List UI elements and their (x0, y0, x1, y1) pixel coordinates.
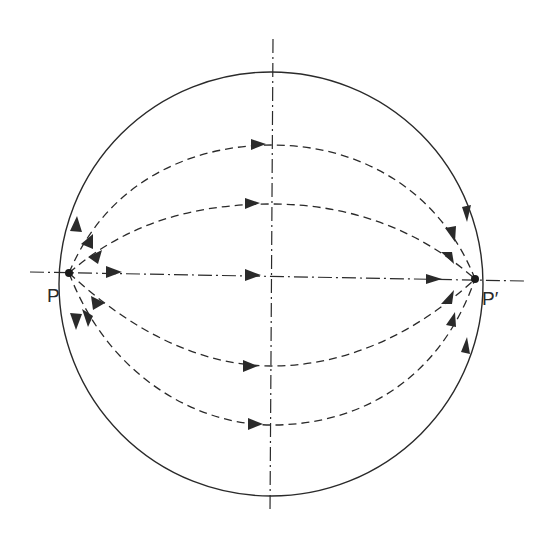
point-P-prime-dot (471, 275, 479, 283)
horizontal-axis (30, 272, 525, 281)
point-P-dot (65, 269, 73, 277)
point-P-label: P (47, 286, 60, 305)
diagram-canvas: P P′ (0, 0, 548, 538)
field-lines-diagram (0, 0, 548, 538)
point-P-prime-label: P′ (482, 289, 498, 308)
field-line-lower-outer (69, 273, 475, 425)
